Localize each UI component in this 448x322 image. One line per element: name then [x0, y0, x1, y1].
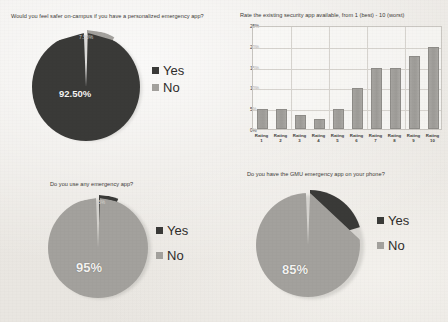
chart-title-safer-on-campus: Would you feel safer on-campus if you ha…	[11, 14, 204, 20]
x-axis-rate-existing-app: Rating1 Rating2 Rating3 Rating4 Rating5 …	[252, 133, 442, 155]
x-tick-label-rating-10: Rating10	[423, 133, 443, 144]
x-tick-label-rating-2: Rating2	[271, 133, 291, 144]
legend-item-no[interactable]: No	[152, 81, 184, 94]
x-tick-label-rating-4: Rating4	[309, 133, 329, 144]
x-tick-label-rating-7: Rating7	[366, 133, 386, 144]
x-tick-label-rating-6: Rating6	[347, 133, 367, 144]
bar-rating-2[interactable]	[276, 109, 287, 129]
chart-panel-rate-existing-app: Rate the existing security app available…	[236, 0, 448, 165]
bar-rating-1[interactable]	[257, 109, 268, 129]
gridline-vertical	[291, 27, 292, 129]
legend-swatch-no	[152, 84, 159, 91]
legend-swatch-no	[156, 252, 163, 259]
x-tick-label-rating-5: Rating5	[328, 133, 348, 144]
chart-panel-use-any-emergency-app: Do you use any emergency app? 5% 95% Yes…	[0, 172, 228, 322]
legend-label-yes: Yes	[167, 224, 188, 237]
legend-item-no[interactable]: No	[377, 239, 409, 252]
bar-rating-9[interactable]	[409, 56, 420, 129]
gridline-vertical	[367, 27, 368, 129]
gridline-vertical	[329, 27, 330, 129]
chart-title-have-gmu-emergency-app: Do you have the GMU emergency app on you…	[247, 172, 385, 178]
legend-use-any-emergency-app: Yes No	[156, 224, 188, 266]
legend-label-yes: Yes	[388, 214, 409, 227]
legend-item-yes[interactable]: Yes	[156, 224, 188, 237]
x-tick-label-rating-3: Rating3	[290, 133, 310, 144]
x-tick-label-rating-8: Rating8	[385, 133, 405, 144]
chart-title-use-any-emergency-app: Do you use any emergency app?	[50, 182, 133, 188]
legend-item-yes[interactable]: Yes	[377, 214, 409, 227]
x-tick-label-rating-1: Rating1	[252, 133, 272, 144]
bar-rating-10[interactable]	[428, 47, 439, 129]
bar-chart-plot-area	[252, 26, 442, 130]
legend-swatch-yes	[152, 67, 159, 74]
pie-slice-label-no: 95%	[76, 261, 102, 274]
pie-have-gmu-emergency-app: 85%	[256, 190, 366, 300]
pie-slice-label-yes: 5%	[98, 200, 105, 205]
gridline-vertical	[405, 27, 406, 129]
legend-label-no: No	[163, 81, 180, 94]
pie-slice-label-no: 7.50%	[79, 35, 93, 40]
bar-rating-5[interactable]	[333, 109, 344, 129]
legend-item-yes[interactable]: Yes	[152, 64, 184, 77]
x-tick-label-rating-9: Rating9	[404, 133, 424, 144]
legend-label-no: No	[167, 249, 184, 262]
pie-safer-on-campus: 7.50% 92.50%	[32, 30, 144, 142]
chart-panel-safer-on-campus: Would you feel safer on-campus if you ha…	[0, 0, 235, 170]
chart-panel-have-gmu-emergency-app: Do you have the GMU emergency app on you…	[226, 166, 448, 322]
legend-swatch-yes	[377, 217, 384, 224]
bar-rating-8[interactable]	[390, 68, 401, 129]
bar-rating-3[interactable]	[295, 115, 306, 129]
legend-safer-on-campus: Yes No	[152, 64, 184, 98]
legend-have-gmu-emergency-app: Yes No	[377, 214, 409, 256]
bar-rating-7[interactable]	[371, 68, 382, 129]
legend-label-no: No	[388, 239, 405, 252]
pie-slice-label-no: 85%	[282, 263, 308, 276]
legend-item-no[interactable]: No	[156, 249, 188, 262]
gridline-horizontal	[253, 48, 441, 49]
pie-use-any-emergency-app: 5% 95%	[48, 195, 152, 299]
bar-rating-6[interactable]	[352, 88, 363, 129]
legend-swatch-no	[377, 242, 384, 249]
legend-swatch-yes	[156, 227, 163, 234]
legend-label-yes: Yes	[163, 64, 184, 77]
bar-rating-4[interactable]	[314, 119, 325, 129]
pie-slice-label-yes: 92.50%	[59, 89, 91, 99]
